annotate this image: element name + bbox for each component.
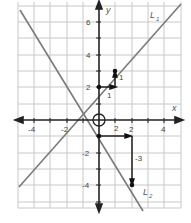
x-tick-label: -2 <box>61 125 69 134</box>
y-tick-label: 2 <box>86 83 91 92</box>
y-tick-label: -4 <box>82 181 90 190</box>
svg-text:L: L <box>150 10 155 20</box>
run-label-l1: 1 <box>107 91 112 100</box>
coordinate-graph: x y -4 -2 2 4 6 4 2 -2 -4 1 1 2 -3 L 1 L… <box>0 0 191 223</box>
y-tick-label: -2 <box>82 149 90 158</box>
rise-label-l2: -3 <box>135 154 143 163</box>
rise-label-l1: 1 <box>119 73 124 82</box>
y-axis-arrow-up <box>96 1 102 9</box>
x-axis-arrow-left <box>15 117 23 123</box>
y-axis-arrow-down <box>96 204 102 212</box>
x-axis-label: x <box>171 103 177 113</box>
svg-text:1: 1 <box>156 16 159 22</box>
x-tick-label: 4 <box>161 125 166 134</box>
line-label-l1: L 1 <box>150 10 159 22</box>
y-axis-label: y <box>105 5 111 15</box>
y-tick-label: 6 <box>86 18 91 27</box>
axes <box>15 1 183 212</box>
graph-lines <box>19 4 181 211</box>
slope-triangle-l2 <box>97 134 134 187</box>
x-axis-arrow-right <box>175 117 183 123</box>
x-tick-label: -4 <box>28 125 36 134</box>
svg-text:2: 2 <box>148 193 153 199</box>
line-l1 <box>19 4 181 187</box>
svg-text:L: L <box>143 187 148 197</box>
y-tick-label: 4 <box>86 51 91 60</box>
run-label-l2: 2 <box>114 124 119 133</box>
x-tick-label: 2 <box>129 125 134 134</box>
